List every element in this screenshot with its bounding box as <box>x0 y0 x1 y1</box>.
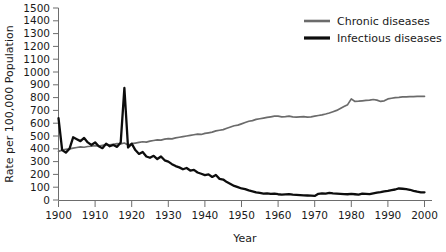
x-axis-tick-labels: 1900191019201930194019501960197019801990… <box>45 209 438 221</box>
y-tick-label: 900 <box>30 78 50 90</box>
y-tick-label: 1100 <box>23 53 50 65</box>
y-tick-label: 500 <box>30 130 50 142</box>
y-tick-label: 300 <box>30 155 50 167</box>
chart-legend: Chronic diseasesInfectious diseases <box>304 15 442 45</box>
y-axis-title: Rate per 100,000 Population <box>3 25 16 182</box>
y-tick-label: 700 <box>30 104 50 116</box>
x-tick-label: 1940 <box>192 209 219 221</box>
series-line-chronic-diseases <box>59 96 425 151</box>
y-tick-label: 1300 <box>23 27 50 39</box>
x-tick-label: 1990 <box>375 209 402 221</box>
x-axis-ticks <box>59 201 425 208</box>
y-axis-tick-labels: 0100200300400500600700800900100011001200… <box>23 2 50 206</box>
x-tick-label: 1910 <box>82 209 109 221</box>
x-tick-label: 1950 <box>228 209 255 221</box>
x-tick-label: 1970 <box>301 209 328 221</box>
series-line-infectious-diseases <box>59 88 425 196</box>
y-tick-label: 400 <box>30 142 50 154</box>
y-tick-label: 800 <box>30 91 50 103</box>
legend-label: Infectious diseases <box>337 32 442 45</box>
chart-container: 0100200300400500600700800900100011001200… <box>0 0 446 252</box>
y-tick-label: 0 <box>43 194 50 206</box>
y-tick-label: 600 <box>30 117 50 129</box>
y-tick-label: 100 <box>30 181 50 193</box>
y-tick-label: 1500 <box>23 2 50 14</box>
y-tick-label: 1400 <box>23 14 50 26</box>
x-axis-title: Year <box>232 232 257 245</box>
y-axis-ticks <box>53 8 59 200</box>
x-tick-label: 1920 <box>118 209 145 221</box>
x-tick-label: 1930 <box>155 209 182 221</box>
y-tick-label: 200 <box>30 168 50 180</box>
x-tick-label: 1980 <box>338 209 365 221</box>
x-tick-label: 2000 <box>411 209 438 221</box>
series-group <box>59 88 425 196</box>
x-tick-label: 1960 <box>265 209 292 221</box>
y-tick-label: 1200 <box>23 40 50 52</box>
legend-label: Chronic diseases <box>337 15 430 28</box>
x-tick-label: 1900 <box>45 209 72 221</box>
line-chart: 0100200300400500600700800900100011001200… <box>0 0 446 252</box>
y-tick-label: 1000 <box>23 66 50 78</box>
